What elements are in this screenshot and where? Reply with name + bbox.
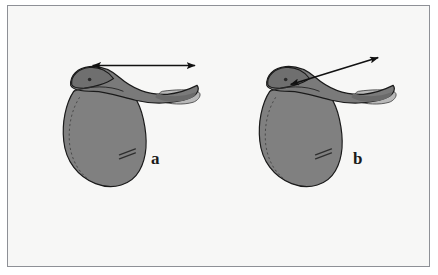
saddle-diagram-canvas [8, 6, 429, 266]
figure-root: a b [0, 0, 438, 275]
figure-frame: a b [7, 5, 430, 267]
saddle-b [259, 58, 396, 187]
saddle-b-stirrup-bar-icon [284, 78, 288, 82]
figure-label-a: a [151, 150, 160, 167]
saddle-a-stirrup-bar-icon [88, 78, 92, 82]
saddle-a [63, 66, 200, 187]
figure-label-b: b [353, 150, 362, 167]
